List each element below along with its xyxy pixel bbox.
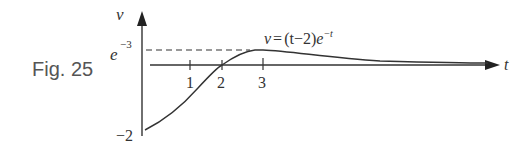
equation: v=(t−2)e−t bbox=[264, 28, 333, 48]
max-label-base: e bbox=[110, 45, 118, 64]
velocity-curve bbox=[145, 50, 488, 130]
tick-label-2: 2 bbox=[217, 74, 225, 91]
velocity-graph: v t e −3 −2 1 2 3 v=(t−2)e−t bbox=[0, 0, 527, 152]
tick-label-1: 1 bbox=[186, 74, 194, 91]
v-axis-arrow-icon bbox=[137, 11, 147, 26]
v-axis-label: v bbox=[116, 5, 124, 24]
tick-label-3: 3 bbox=[258, 74, 266, 91]
t-axis-label: t bbox=[504, 56, 509, 73]
t-axis-arrow-icon bbox=[485, 60, 500, 70]
min-label: −2 bbox=[116, 127, 133, 144]
max-label-exponent: −3 bbox=[120, 38, 132, 50]
